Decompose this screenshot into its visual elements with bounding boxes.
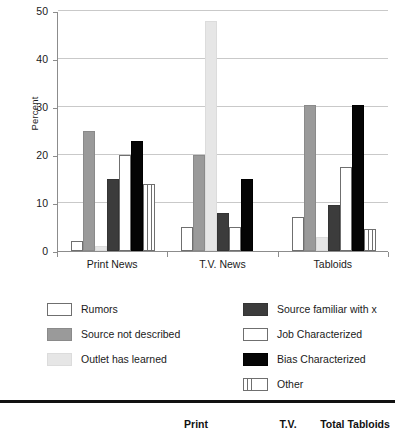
legend-item-label: Source familiar with x xyxy=(277,304,377,315)
white-outline-swatch xyxy=(243,328,268,341)
x-tick-mark-0 xyxy=(57,252,58,257)
y-tick-label-20: 20 xyxy=(6,150,48,161)
medium-gray-swatch xyxy=(47,328,72,341)
y-tick-label-0: 0 xyxy=(6,246,48,257)
bar-group-tabloids xyxy=(279,12,389,251)
legend-item: Source familiar with x xyxy=(243,297,377,322)
bar-group-t-v-news xyxy=(168,12,278,251)
table-header-tv: T.V. xyxy=(279,418,296,430)
x-tick-label-print-news: Print News xyxy=(57,258,167,270)
bar xyxy=(143,184,155,251)
vertical-stripes-swatch xyxy=(243,378,268,391)
bar xyxy=(316,237,328,251)
dark-gray-swatch xyxy=(243,303,268,316)
legend-item-label: Bias Characterized xyxy=(277,354,366,365)
bar xyxy=(193,155,205,251)
bar xyxy=(340,167,352,251)
table-header-row: Print T.V. Total Tabloids xyxy=(0,418,395,438)
y-axis-title: Percent xyxy=(29,74,40,154)
bar xyxy=(205,21,217,251)
bar xyxy=(217,213,229,251)
bar xyxy=(181,227,193,251)
bar xyxy=(119,155,131,251)
bar xyxy=(229,227,241,251)
legend-item-label: Outlet has learned xyxy=(81,354,167,365)
horizontal-rule xyxy=(0,400,395,403)
bar xyxy=(71,241,83,251)
legend-item: Outlet has learned xyxy=(47,347,180,372)
bar xyxy=(83,131,95,251)
x-tick-mark-3 xyxy=(388,252,389,257)
bar xyxy=(131,141,143,251)
legend-item-label: Job Characterized xyxy=(277,329,362,340)
plot-area xyxy=(57,12,388,252)
y-tick-label-10: 10 xyxy=(6,198,48,209)
legend-item-label: Other xyxy=(277,379,303,390)
bar xyxy=(107,179,119,251)
table-header-print: Print xyxy=(184,418,208,430)
bar xyxy=(328,205,340,251)
legend-column-right: Source familiar with xJob CharacterizedB… xyxy=(243,297,377,397)
legend-item: Rumors xyxy=(47,297,180,322)
legend-item-label: Source not described xyxy=(81,329,180,340)
legend-item: Source not described xyxy=(47,322,180,347)
legend-item: Job Characterized xyxy=(243,322,377,347)
x-tick-label-tabloids: Tabloids xyxy=(278,258,388,270)
table-header-total-tabloids: Total Tabloids xyxy=(320,418,390,430)
legend-column-left: RumorsSource not describedOutlet has lea… xyxy=(47,297,180,372)
x-tick-mark-1 xyxy=(167,252,168,257)
legend-item: Bias Characterized xyxy=(243,347,377,372)
gridline-50 xyxy=(58,10,388,11)
bar xyxy=(364,229,376,251)
x-tick-label-t-v-news: T.V. News xyxy=(167,258,277,270)
bar-chart-figure: Percent 01020304050 Print NewsT.V. NewsT… xyxy=(0,0,395,442)
bar xyxy=(292,217,304,251)
legend-item-label: Rumors xyxy=(81,304,118,315)
y-tick-label-50: 50 xyxy=(6,6,48,17)
chart-legend: RumorsSource not describedOutlet has lea… xyxy=(0,297,395,389)
bar xyxy=(241,179,253,251)
legend-item: Other xyxy=(243,372,377,397)
bars xyxy=(58,12,168,251)
bar xyxy=(304,105,316,251)
y-tick-label-30: 30 xyxy=(6,102,48,113)
bars xyxy=(279,12,389,251)
bar-group-print-news xyxy=(58,12,168,251)
bar xyxy=(352,105,364,251)
bar xyxy=(95,246,107,251)
black-swatch xyxy=(243,353,268,366)
white-outline-swatch xyxy=(47,303,72,316)
x-tick-mark-2 xyxy=(278,252,279,257)
y-tick-label-40: 40 xyxy=(6,54,48,65)
bars xyxy=(168,12,278,251)
very-light-gray-swatch xyxy=(47,353,72,366)
